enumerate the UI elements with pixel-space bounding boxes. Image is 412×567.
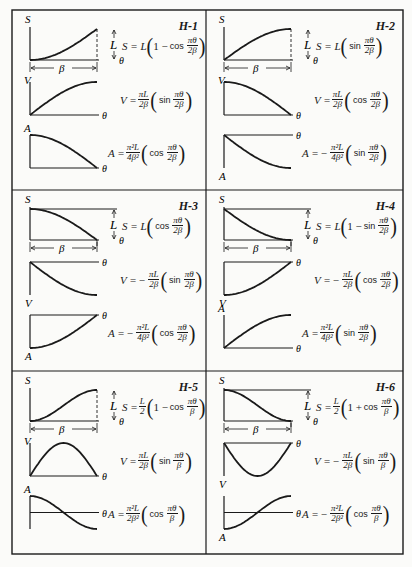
trig-function: cos <box>170 402 184 412</box>
open-paren: ( <box>151 322 158 343</box>
velocity-formula: V =−πL2β(sinπθβ) <box>314 451 396 470</box>
displacement-formula: S = L(cosπθ2β) <box>122 216 191 235</box>
displacement-formula: S =L2(1 +cosπθβ) <box>316 397 399 416</box>
close-paren: ) <box>199 396 206 417</box>
acceleration-plot: Aθ <box>23 122 107 174</box>
formula-coefficient: πL2β <box>342 451 354 470</box>
formula-sign: − <box>139 274 145 286</box>
acceleration-formula: A =−π²L2β²(cosπθβ) <box>302 504 389 523</box>
formula-lead-term: 1 + <box>347 401 361 413</box>
theta-label: θ <box>296 343 301 354</box>
trig-function: sin <box>159 95 171 105</box>
displacement-curve <box>224 390 291 421</box>
formula-argument-denominator: β <box>383 407 389 416</box>
formula-sign: − <box>333 274 339 286</box>
formula-argument: πθ2β <box>177 323 188 342</box>
displacement-formula: S =L2(1 −cosπθβ) <box>122 397 205 416</box>
velocity-curve <box>30 443 97 476</box>
panel-h6: LθSβVθAθH-6S =L2(1 +cosπθβ)V =−πL2β(sinπ… <box>206 371 403 554</box>
formula-argument: πθ2β <box>370 90 381 109</box>
formula-argument-denominator: 2β <box>187 46 198 55</box>
formula-lhs: V = <box>120 274 137 286</box>
velocity-plot: Vθ <box>24 435 107 482</box>
velocity-plot: Vθ <box>219 438 301 490</box>
a-axis-label: A <box>23 483 31 495</box>
formula-coefficient: πL2β <box>342 270 354 289</box>
close-paren: ) <box>199 35 206 56</box>
period-label-beta: β <box>252 242 259 254</box>
s-axis-label: S <box>25 374 31 386</box>
acceleration-plot: Aθ <box>23 483 107 529</box>
open-paren: ( <box>160 269 167 290</box>
velocity-formula: V =πL2β(cosπθ2β) <box>314 90 389 109</box>
formula-lhs: A = <box>108 508 125 520</box>
acceleration-plot: Aθ <box>218 496 301 543</box>
formula-argument: πθβ <box>187 397 198 416</box>
formula-lhs: V = <box>314 455 331 467</box>
velocity-curve <box>224 443 291 476</box>
theta-label: θ <box>296 130 301 141</box>
formula-lhs: A = <box>108 327 125 339</box>
velocity-plot: Vθ <box>25 257 107 309</box>
formula-coefficient-denominator: 2β <box>148 280 159 289</box>
velocity-formula: V =πL2β(sinπθβ) <box>120 451 192 470</box>
formula-lead-term: 1 − <box>153 40 167 52</box>
formula-argument: πθ2β <box>368 143 379 162</box>
velocity-formula: V =−πL2β(cosπθ2β) <box>314 270 399 289</box>
formula-argument: πθ2β <box>184 270 195 289</box>
formula-coefficient: π²L2β² <box>330 504 344 523</box>
formula-lead-term: 1 − <box>153 401 167 413</box>
open-paren: ( <box>335 322 342 343</box>
panel-h4: LθSβVθAθH-4S = L(1 −sinπθ2β)V =−πL2β(cos… <box>206 190 403 371</box>
formula-lhs: S = L <box>316 40 341 52</box>
formula-coefficient-denominator: 2β <box>138 100 149 109</box>
trig-function: cos <box>155 221 169 231</box>
half-factor-denominator: 2 <box>333 407 340 416</box>
trig-function: cos <box>363 275 377 285</box>
period-label-beta: β <box>58 423 65 435</box>
trig-function: sin <box>363 456 375 466</box>
formula-coefficient-denominator: 4β² <box>320 333 334 342</box>
theta-label: θ <box>102 471 107 482</box>
formula-argument: πθ2β <box>378 216 389 235</box>
displacement-curve <box>30 29 97 60</box>
open-paren: ( <box>147 215 154 236</box>
acceleration-plot: Aθ <box>24 310 107 362</box>
acceleration-curve <box>224 315 291 348</box>
open-paren: ( <box>147 35 154 56</box>
formula-argument: πθ2β <box>380 270 391 289</box>
theta-label: θ <box>102 110 107 121</box>
formula-coefficient-denominator: 4β² <box>136 333 150 342</box>
formula-coefficient: π²L4β² <box>136 323 150 342</box>
formula-coefficient: π²L4β² <box>330 143 344 162</box>
formula-lhs: A = <box>302 327 319 339</box>
close-paren: ) <box>196 269 203 290</box>
displacement-curve <box>30 390 97 421</box>
formula-sign: − <box>321 147 327 159</box>
trig-function: cos <box>354 509 368 519</box>
open-paren: ( <box>150 89 157 110</box>
panel-id-label: H-1 <box>179 19 198 34</box>
half-factor-denominator: 2 <box>139 407 146 416</box>
panel-id-label: H-3 <box>179 199 198 214</box>
formula-coefficient-denominator: 2β <box>138 461 149 470</box>
formula-coefficient: πL2β <box>332 90 344 109</box>
half-factor: L2 <box>139 397 146 416</box>
formula-argument-denominator: 2β <box>370 100 381 109</box>
trig-function: cos <box>364 402 378 412</box>
theta-label: θ <box>313 235 318 246</box>
theta-label: θ <box>119 416 124 427</box>
s-axis-label: S <box>25 13 31 25</box>
velocity-curve <box>30 82 97 115</box>
rise-label-L: L <box>109 217 117 232</box>
formula-argument: πθ2β <box>358 323 369 342</box>
open-paren: ( <box>354 450 361 471</box>
trig-function: cos <box>170 41 184 51</box>
displacement-curve <box>224 29 291 60</box>
close-paren: ) <box>393 396 400 417</box>
trig-function: sin <box>354 148 366 158</box>
theta-label: θ <box>102 310 107 321</box>
acceleration-formula: A =π²L4β²(sinπθ2β) <box>302 323 377 342</box>
formula-lhs: S = L <box>316 220 341 232</box>
open-paren: ( <box>141 142 148 163</box>
